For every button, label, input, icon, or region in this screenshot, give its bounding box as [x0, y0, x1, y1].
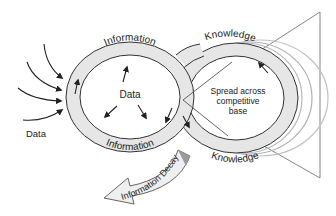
input-arrow-icon: [18, 88, 61, 101]
spread-label-line2: competitive: [217, 96, 260, 106]
input-arrow-icon: [27, 62, 61, 90]
input-arrow-icon: [23, 110, 62, 120]
data-input-arrows: [18, 44, 62, 120]
data-center-label: Data: [119, 89, 141, 100]
spread-label-line3: base: [229, 106, 248, 116]
data-input-label: Data: [26, 128, 47, 139]
spread-label-line1: Spread across: [211, 86, 266, 96]
input-arrow-icon: [44, 44, 62, 78]
knowledge-cycle-diagram: Information Information Knowledge Knowle…: [0, 0, 336, 216]
knowledge-top-label: Knowledge: [203, 27, 258, 43]
